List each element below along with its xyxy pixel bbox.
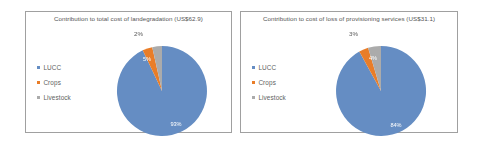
pie-slice-label-livestock: 4% bbox=[369, 55, 377, 61]
legend-item-lucc: LUCC bbox=[252, 60, 314, 75]
legend-label-livestock: Livestock bbox=[43, 90, 71, 105]
legend-label-crops: Crops bbox=[43, 75, 61, 90]
legend-item-livestock: Livestock bbox=[37, 90, 99, 105]
pie-callout-crops: 3% bbox=[349, 30, 358, 37]
legend-swatch-crops bbox=[252, 81, 255, 84]
chart-title: Contribution to total cost of landegrada… bbox=[26, 15, 231, 23]
figure-canvas: Contribution to total cost of landegrada… bbox=[0, 0, 481, 147]
pie-svg: 84% 4% bbox=[333, 43, 429, 139]
legend-swatch-crops bbox=[37, 81, 40, 84]
legend-label-lucc: LUCC bbox=[43, 60, 61, 75]
pie-chart-landdegradation: 93% 5% 2% bbox=[114, 43, 210, 139]
pie-slice-lucc bbox=[336, 46, 426, 136]
pie-callout-livestock: 2% bbox=[134, 30, 143, 37]
pie-slice-label-lucc: 93% bbox=[170, 121, 181, 127]
pie-chart-provisioning-services: 84% 4% 3% bbox=[333, 43, 429, 139]
legend-swatch-lucc bbox=[252, 66, 255, 69]
legend-label-crops: Crops bbox=[258, 75, 276, 90]
legend-label-livestock: Livestock bbox=[258, 90, 286, 105]
legend-swatch-lucc bbox=[37, 66, 40, 69]
chart-legend: LUCC Crops Livestock bbox=[37, 60, 99, 105]
legend-item-lucc: LUCC bbox=[37, 60, 99, 75]
chart-panel-landdegradation: Contribution to total cost of landegrada… bbox=[25, 11, 232, 133]
legend-swatch-livestock bbox=[252, 96, 255, 99]
legend-item-crops: Crops bbox=[37, 75, 99, 90]
pie-slice-label-lucc: 84% bbox=[390, 122, 401, 128]
chart-title: Contribution to cost of loss of provisio… bbox=[241, 15, 457, 23]
chart-panel-provisioning-services: Contribution to cost of loss of provisio… bbox=[240, 11, 458, 133]
chart-legend: LUCC Crops Livestock bbox=[252, 60, 314, 105]
legend-label-lucc: LUCC bbox=[258, 60, 276, 75]
legend-item-livestock: Livestock bbox=[252, 90, 314, 105]
pie-svg: 93% 5% bbox=[114, 43, 210, 139]
legend-swatch-livestock bbox=[37, 96, 40, 99]
pie-slice-label-crops: 5% bbox=[143, 56, 151, 62]
legend-item-crops: Crops bbox=[252, 75, 314, 90]
